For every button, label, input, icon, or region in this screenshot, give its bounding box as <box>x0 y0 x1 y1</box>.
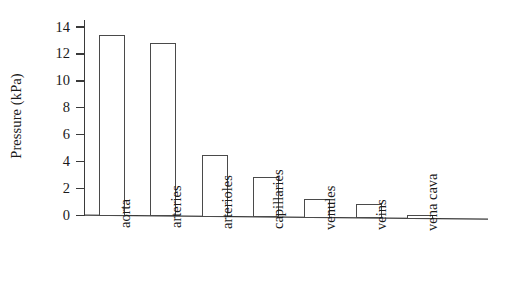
plot-area: 14121086420 aortaarteriesarteriolescapil… <box>0 0 507 305</box>
y-axis-line <box>84 20 85 216</box>
y-tick-label: 8 <box>44 100 70 115</box>
y-tick-label: 12 <box>44 46 70 61</box>
x-axis-category-label: arterioles <box>220 175 235 229</box>
y-tick-label: 0 <box>44 208 70 223</box>
y-tick-mark <box>76 26 84 27</box>
bar-chart-figure: Pressure (kPa) 14121086420 aortaarteries… <box>0 0 507 305</box>
y-tick-mark <box>76 161 84 162</box>
y-tick-mark <box>76 80 84 81</box>
y-tick-mark <box>76 215 84 216</box>
bar <box>99 35 125 216</box>
y-tick-mark <box>76 134 84 135</box>
x-axis-category-label: arteries <box>169 186 184 229</box>
x-axis-category-label: vena cava <box>425 173 440 231</box>
x-axis-category-label: capillaries <box>271 170 286 230</box>
y-tick-label: 4 <box>44 154 70 169</box>
y-tick-label: 2 <box>44 181 70 196</box>
y-tick-label: 10 <box>44 73 70 88</box>
y-tick-mark <box>76 53 84 54</box>
x-axis-category-label: veins <box>374 200 389 231</box>
x-axis-category-label: venules <box>323 186 338 230</box>
x-axis-category-label: aorta <box>118 199 133 228</box>
y-tick-label: 6 <box>44 127 70 142</box>
y-tick-label: 14 <box>44 20 70 35</box>
y-tick-mark <box>76 188 84 189</box>
y-tick-mark <box>76 107 84 108</box>
